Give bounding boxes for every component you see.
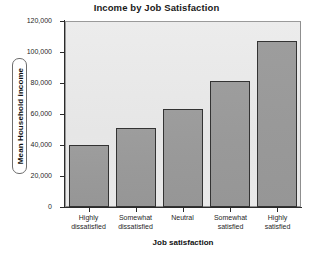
x-axis-category-label: Somewhatdissatisfied — [112, 214, 159, 231]
y-axis-tick-label-wrap: 120,000 — [0, 21, 60, 22]
y-axis-tick — [60, 52, 65, 53]
y-axis-tick-label-wrap: 20,000 — [0, 176, 60, 177]
y-axis-tick-label-wrap: 80,000 — [0, 83, 60, 84]
x-axis-tick — [230, 208, 231, 212]
y-axis-tick-label: 100,000 — [8, 48, 52, 55]
y-axis-tick-label-wrap: 0 — [0, 207, 60, 208]
x-axis-category-label-line: dissatisfied — [112, 223, 159, 232]
x-axis-tick — [183, 208, 184, 212]
x-axis-category-label: Neutral — [159, 214, 206, 223]
y-axis-tick-label: 0 — [8, 203, 52, 210]
y-axis-tick — [60, 207, 65, 208]
bar — [257, 41, 297, 207]
y-axis-title-box: Mean Household income — [12, 58, 27, 174]
x-axis-category-label-line: Somewhat — [112, 214, 159, 223]
y-axis-tick-label: 120,000 — [8, 17, 52, 24]
x-axis-category-label: Highlysatisfied — [254, 214, 301, 231]
bar — [163, 109, 203, 207]
bar-chart: Income by Job Satisfaction 020,00040,000… — [0, 0, 313, 259]
bar — [210, 81, 250, 207]
x-axis-category-label: Somewhatsatisfied — [207, 214, 254, 231]
x-axis-category-label: Highlydissatisfied — [65, 214, 112, 231]
x-axis-title: Job satisfaction — [65, 238, 301, 247]
bar — [69, 145, 109, 207]
y-axis-tick-label-wrap: 60,000 — [0, 114, 60, 115]
x-axis-category-label-line: Neutral — [159, 214, 206, 223]
x-axis-category-label-line: Somewhat — [207, 214, 254, 223]
y-axis-tick — [60, 83, 65, 84]
bar — [116, 128, 156, 207]
y-axis-tick — [60, 145, 65, 146]
x-axis-category-label-line: satisfied — [254, 223, 301, 232]
chart-title: Income by Job Satisfaction — [0, 2, 313, 13]
x-axis-category-label-line: Highly — [65, 214, 112, 223]
x-axis-tick — [136, 208, 137, 212]
x-axis-category-label-line: Highly — [254, 214, 301, 223]
x-axis-category-label-line: dissatisfied — [65, 223, 112, 232]
y-axis-title: Mean Household income — [15, 68, 24, 164]
x-axis-tick — [89, 208, 90, 212]
y-axis-tick-label-wrap: 40,000 — [0, 145, 60, 146]
y-axis-tick — [60, 176, 65, 177]
y-axis-tick — [60, 114, 65, 115]
x-axis-category-label-line: satisfied — [207, 223, 254, 232]
y-axis-tick — [60, 21, 65, 22]
x-axis-tick — [277, 208, 278, 212]
y-axis-tick-label-wrap: 100,000 — [0, 52, 60, 53]
